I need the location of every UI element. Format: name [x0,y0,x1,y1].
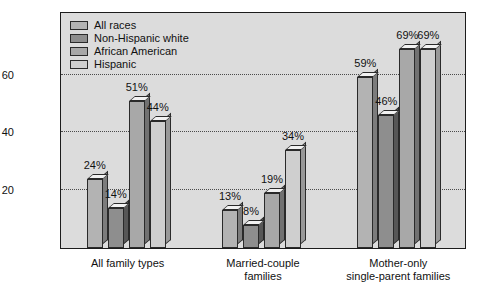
bar: 8% [243,225,259,248]
bar-front-face [87,179,103,248]
x-axis-group-label: Married-couple families [195,257,330,283]
bar-value-label: 14% [105,189,127,200]
bar-front-face [420,49,436,248]
bar-front-face [108,208,124,248]
legend-swatch-non-hispanic-white [70,34,88,43]
bar-value-label: 24% [84,160,106,171]
bar-side-face [301,142,306,244]
legend-label-hispanic: Hispanic [94,59,136,70]
legend-label-non-hispanic-white: Non-Hispanic white [94,33,189,44]
bar-value-label: 13% [219,191,241,202]
legend-label-african-american: African American [94,46,177,57]
bar-side-face [166,113,171,244]
bar-front-face [222,210,238,248]
bar-value-label: 69% [417,30,439,41]
chart-legend: All races Non-Hispanic white African Ame… [70,19,189,71]
plot-inner: 24%14%51%44%13%8%19%34%59%46%69%69% All … [61,13,465,248]
bar: 44% [150,121,166,248]
plot-area: 24%14%51%44%13%8%19%34%59%46%69%69% All … [60,12,466,249]
bar: 14% [108,208,124,248]
legend-item-all-races: All races [70,19,189,31]
bar-value-label: 19% [261,174,283,185]
legend-label-all-races: All races [94,20,136,31]
legend-swatch-african-american [70,47,88,56]
legend-item-hispanic: Hispanic [70,58,189,70]
legend-swatch-all-races [70,21,88,30]
bar: 59% [357,77,373,248]
bar-front-face [378,115,394,248]
y-tick-label-40: 40 [0,127,14,138]
bar-value-label: 46% [375,96,397,107]
y-tick-label-60: 60 [0,70,14,81]
bar-front-face [150,121,166,248]
bar-chart: 24%14%51%44%13%8%19%34%59%46%69%69% All … [0,0,483,295]
bar: 46% [378,115,394,248]
bar-value-label: 51% [126,82,148,93]
x-axis-group-label: All family types [60,257,195,270]
bar: 51% [129,101,145,248]
bar: 24% [87,179,103,248]
bar: 69% [399,49,415,248]
bar-front-face [129,101,145,248]
bar-value-label: 69% [396,30,418,41]
bar-value-label: 59% [354,58,376,69]
bar-front-face [357,77,373,248]
bar-front-face [285,150,301,248]
legend-swatch-hispanic [70,60,88,69]
bar-front-face [399,49,415,248]
bar: 34% [285,150,301,248]
bar-value-label: 8% [243,206,259,217]
bar-front-face [243,225,259,248]
bar-value-label: 34% [282,131,304,142]
x-axis-group-label: Mother-only single-parent families [331,257,466,283]
bar: 69% [420,49,436,248]
legend-item-non-hispanic-white: Non-Hispanic white [70,32,189,44]
bar-front-face [264,193,280,248]
bar-side-face [436,40,441,244]
bar: 19% [264,193,280,248]
legend-item-african-american: African American [70,45,189,57]
bar-value-label: 44% [147,102,169,113]
y-tick-label-20: 20 [0,185,14,196]
bar: 13% [222,210,238,248]
